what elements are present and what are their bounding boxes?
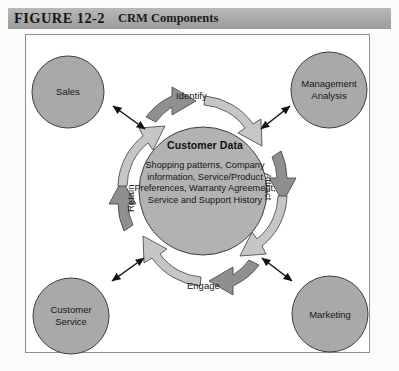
center-title: Customer Data: [135, 139, 275, 151]
connector-marketing: [262, 258, 292, 281]
center-body: Shopping patterns, Company information, …: [130, 160, 280, 206]
node-circle-management-analysis[interactable]: [291, 52, 367, 128]
node-circle-sales[interactable]: [32, 56, 104, 128]
connector-customer-service: [112, 258, 144, 281]
node-circle-marketing[interactable]: [292, 276, 368, 352]
connector-management-analysis: [261, 106, 290, 129]
node-circle-customer-service[interactable]: [33, 278, 109, 354]
connector-sales: [113, 106, 145, 129]
